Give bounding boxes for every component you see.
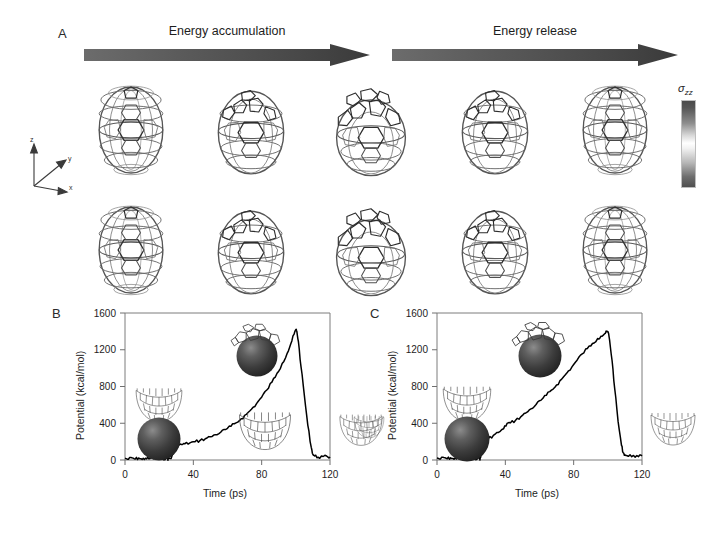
arrow-glyph <box>392 44 678 66</box>
inset-b-empty-cap <box>236 410 294 452</box>
energy-accumulation-arrow: Energy accumulation <box>84 44 370 66</box>
axis-triad: z y x <box>20 134 82 200</box>
inset-b-sphere <box>136 416 182 462</box>
x-tick-label: 80 <box>256 469 268 480</box>
x-tick-label: 80 <box>568 469 580 480</box>
structure-frame-6 <box>88 194 174 306</box>
panel-a-letter: A <box>58 26 67 41</box>
fullerene-render <box>88 74 174 186</box>
y-tick-label: 0 <box>110 455 116 466</box>
energy-release-arrow: Energy release <box>392 44 678 66</box>
structure-frame-3 <box>328 74 414 186</box>
structure-frame-2 <box>208 74 294 186</box>
structure-frame-4 <box>452 74 538 186</box>
x-tick-label: 0 <box>434 469 440 480</box>
chart-b-xlabel: Time (ps) <box>125 487 325 499</box>
y-tick-label: 0 <box>422 455 428 466</box>
sigma-symbol: σ <box>678 82 685 94</box>
arrow-glyph <box>84 44 370 66</box>
structure-frame-5 <box>572 74 658 186</box>
fullerene-render <box>328 194 414 306</box>
x-tick-label: 0 <box>122 469 128 480</box>
energy-accumulation-label: Energy accumulation <box>84 24 370 38</box>
chart-b-svg: 04008001200160004080120 <box>60 305 360 505</box>
structure-frame-7 <box>208 194 294 306</box>
fullerene-render <box>572 74 658 186</box>
triad-y-label: y <box>68 155 72 163</box>
inset-c-empty-cap-right <box>648 410 698 448</box>
y-tick-label: 1200 <box>94 344 117 355</box>
structure-frame-9 <box>452 194 538 306</box>
carbon-cap-deformed-icon <box>229 321 285 347</box>
chart-c-xlabel: Time (ps) <box>437 487 637 499</box>
y-tick-label: 1200 <box>406 344 429 355</box>
fullerene-render <box>328 74 414 186</box>
triad-x-label: x <box>69 184 73 191</box>
carbon-bowl-icon <box>236 410 294 452</box>
fullerene-render <box>88 194 174 306</box>
y-tick-label: 800 <box>411 381 428 392</box>
x-tick-label: 40 <box>188 469 200 480</box>
stress-colorbar <box>681 100 696 188</box>
fullerene-render <box>572 194 658 306</box>
structure-frame-1 <box>88 74 174 186</box>
y-tick-label: 400 <box>411 418 428 429</box>
inset-c-cap-deformed <box>510 319 570 347</box>
y-tick-label: 1600 <box>94 308 117 319</box>
chart-panel-b: 04008001200160004080120 <box>60 305 360 509</box>
x-tick-label: 40 <box>500 469 512 480</box>
sigma-subscript: zz <box>685 88 693 97</box>
y-tick-label: 1600 <box>406 308 429 319</box>
carbon-bowl-icon <box>352 414 386 440</box>
x-tick-label: 120 <box>322 469 339 480</box>
inset-b-cap-deformed <box>229 321 285 347</box>
y-tick-label: 400 <box>99 418 116 429</box>
inset-c-sphere <box>443 415 491 463</box>
y-tick-label: 800 <box>99 381 116 392</box>
inset-c-empty-cap-left <box>352 414 386 440</box>
fullerene-render <box>208 194 294 306</box>
structure-frame-10 <box>572 194 658 306</box>
carbon-cap-deformed-icon <box>510 319 570 347</box>
carbon-bowl-icon <box>648 410 698 448</box>
triad-z-label: z <box>30 136 34 143</box>
energy-release-label: Energy release <box>392 24 678 38</box>
x-tick-label: 120 <box>634 469 651 480</box>
fullerene-render <box>208 74 294 186</box>
fullerene-render <box>452 194 538 306</box>
fullerene-render <box>452 74 538 186</box>
chart-b-ylabel: Potential (kcal/mol) <box>74 351 86 440</box>
colorbar-label: σzz <box>678 82 693 97</box>
structure-frame-8 <box>328 194 414 306</box>
chart-c-ylabel: Potential (kcal/mol) <box>386 351 398 440</box>
